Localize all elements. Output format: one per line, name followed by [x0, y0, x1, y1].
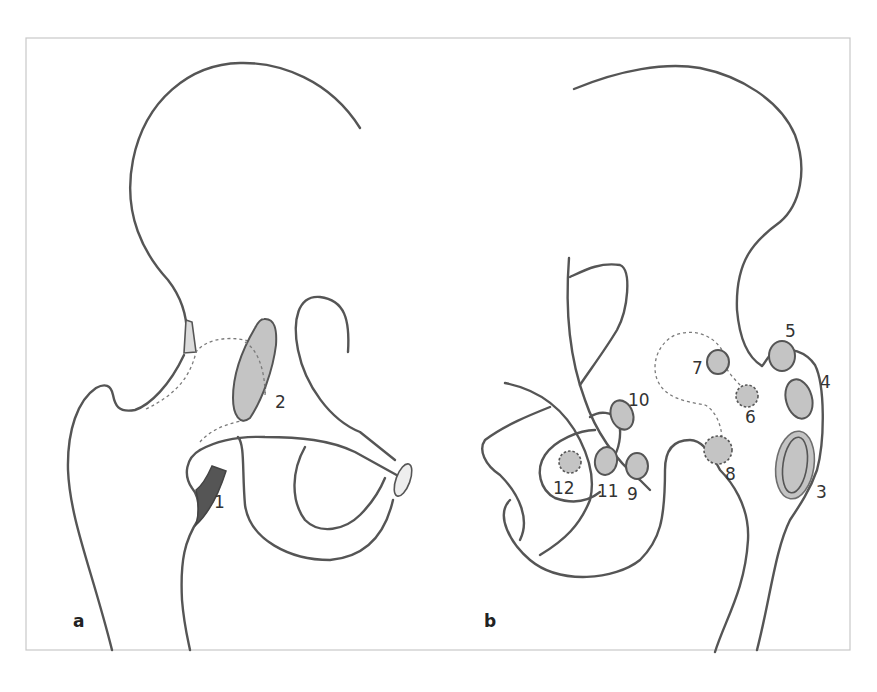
marker-3-label: 3: [816, 482, 827, 502]
marker-9-label: 9: [627, 484, 638, 504]
lesion-5: [769, 341, 795, 371]
lesion-6: [736, 385, 758, 407]
anatomical-figure: 1 2 a 3 4 5 6 7: [0, 0, 877, 692]
marker-12-label: 12: [553, 478, 575, 498]
figure-frame: [26, 38, 850, 650]
lesion-8: [704, 436, 732, 464]
lesion-12: [559, 451, 581, 473]
marker-1-label: 1: [214, 492, 225, 512]
marker-4-label: 4: [820, 372, 831, 392]
lesion-7: [707, 350, 729, 374]
panel-a-label: a: [73, 611, 84, 631]
marker-10-label: 10: [628, 390, 650, 410]
marker-2-label: 2: [275, 392, 286, 412]
marker-5-label: 5: [785, 321, 796, 341]
marker-11-label: 11: [597, 481, 619, 501]
marker-8-label: 8: [725, 464, 736, 484]
marker-7-label: 7: [692, 358, 703, 378]
panel-b-label: b: [484, 611, 496, 631]
marker-6-label: 6: [745, 407, 756, 427]
lesion-9: [626, 453, 648, 479]
